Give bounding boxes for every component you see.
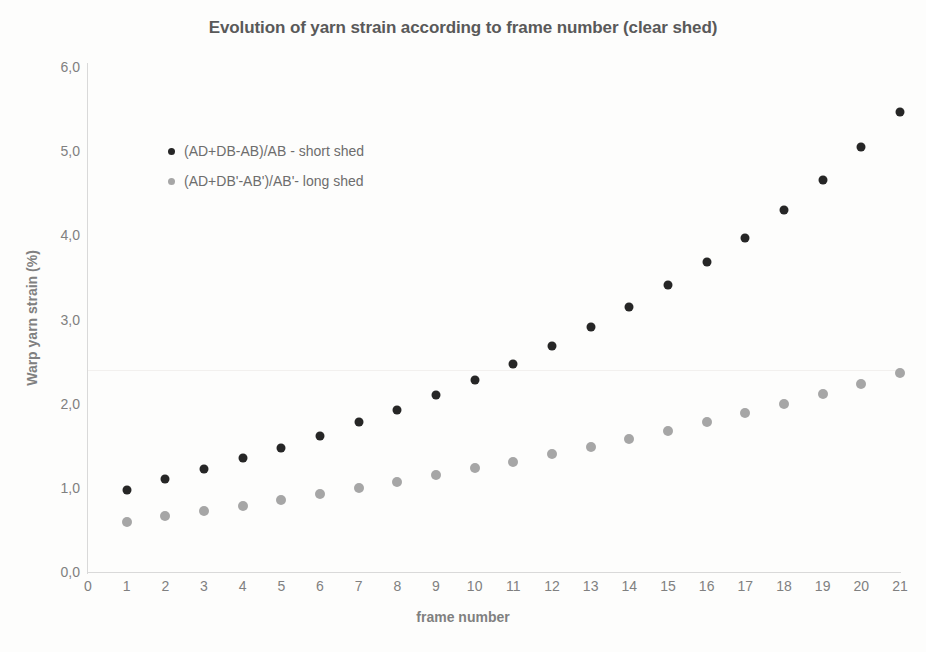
data-point [392, 477, 402, 487]
chart-title: Evolution of yarn strain according to fr… [0, 18, 926, 38]
legend-label: (AD+DB-AB)/AB - short shed [184, 143, 364, 159]
x-axis-tick-label: 17 [730, 578, 760, 594]
data-point [432, 391, 441, 400]
data-point [779, 399, 789, 409]
legend-label: (AD+DB'-AB')/AB'- long shed [184, 173, 364, 189]
data-point [238, 454, 247, 463]
data-point [818, 175, 827, 184]
gridline [88, 370, 900, 371]
data-point [780, 206, 789, 215]
data-point [741, 233, 750, 242]
data-point [895, 368, 905, 378]
x-axis-tick-label: 2 [150, 578, 180, 594]
y-axis-tick-label: 1,0 [36, 480, 80, 496]
data-point [161, 475, 170, 484]
x-axis-tick-label: 4 [228, 578, 258, 594]
chart-legend: (AD+DB-AB)/AB - short shed(AD+DB'-AB')/A… [168, 136, 468, 196]
data-point [508, 457, 518, 467]
data-point [470, 376, 479, 385]
x-axis-tick-label: 7 [344, 578, 374, 594]
x-axis-tick-label: 14 [614, 578, 644, 594]
y-axis-tick-labels: 0,01,02,03,04,05,06,0 [28, 0, 80, 652]
y-axis-tick-label: 2,0 [36, 396, 80, 412]
data-point [663, 426, 673, 436]
x-axis-tick-label: 10 [460, 578, 490, 594]
x-axis-tick-label: 19 [808, 578, 838, 594]
data-point [702, 258, 711, 267]
x-axis-tick-label: 13 [576, 578, 606, 594]
data-point [276, 495, 286, 505]
data-point [586, 323, 595, 332]
legend-entry[interactable]: (AD+DB-AB)/AB - short shed [168, 136, 468, 166]
y-axis-tick-label: 5,0 [36, 143, 80, 159]
data-point [199, 506, 209, 516]
data-point [586, 442, 596, 452]
data-point [547, 449, 557, 459]
data-point [238, 501, 248, 511]
data-point [122, 517, 132, 527]
data-point [277, 444, 286, 453]
data-point [431, 470, 441, 480]
data-point [316, 431, 325, 440]
x-axis-tick-label: 8 [382, 578, 412, 594]
y-axis-tick-label: 4,0 [36, 227, 80, 243]
chart-container: Evolution of yarn strain according to fr… [0, 0, 926, 652]
data-point [315, 489, 325, 499]
x-axis-tick-label: 21 [885, 578, 915, 594]
x-axis-tick-label: 20 [846, 578, 876, 594]
data-point [200, 465, 209, 474]
x-axis-tick-label: 12 [537, 578, 567, 594]
data-point [122, 485, 131, 494]
data-point [740, 408, 750, 418]
data-point [664, 280, 673, 289]
x-axis-tick-label: 15 [653, 578, 683, 594]
data-point [856, 379, 866, 389]
data-point [548, 342, 557, 351]
y-axis-tick-label: 6,0 [36, 59, 80, 75]
data-point [818, 389, 828, 399]
x-axis-line [87, 572, 901, 573]
x-axis-tick-label: 3 [189, 578, 219, 594]
data-point [625, 302, 634, 311]
data-point [509, 360, 518, 369]
x-axis-tick-label: 18 [769, 578, 799, 594]
data-point [624, 434, 634, 444]
data-point [470, 463, 480, 473]
legend-entry[interactable]: (AD+DB'-AB')/AB'- long shed [168, 166, 468, 196]
x-axis-tick-label: 11 [498, 578, 528, 594]
data-point [857, 142, 866, 151]
x-axis-title: frame number [0, 609, 926, 625]
legend-marker-icon [168, 178, 175, 185]
x-axis-tick-label: 6 [305, 578, 335, 594]
x-axis-tick-label: 5 [266, 578, 296, 594]
x-axis-tick-label: 16 [692, 578, 722, 594]
y-axis-tick-label: 3,0 [36, 312, 80, 328]
legend-marker-icon [168, 148, 175, 155]
data-point [354, 418, 363, 427]
x-axis-tick-label: 1 [112, 578, 142, 594]
data-point [160, 511, 170, 521]
data-point [354, 483, 364, 493]
x-axis-tick-label: 9 [421, 578, 451, 594]
data-point [702, 417, 712, 427]
x-axis-tick-label: 0 [73, 578, 103, 594]
data-point [393, 405, 402, 414]
data-point [896, 107, 905, 116]
